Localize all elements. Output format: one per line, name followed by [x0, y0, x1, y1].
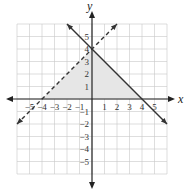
- svg-text:−3: −3: [50, 102, 60, 112]
- svg-text:4: 4: [85, 44, 90, 54]
- svg-text:3: 3: [127, 102, 132, 112]
- svg-text:5: 5: [152, 102, 157, 112]
- svg-text:−1: −1: [79, 107, 89, 117]
- svg-text:−5: −5: [79, 157, 89, 167]
- svg-text:2: 2: [85, 69, 90, 79]
- axes: [6, 11, 175, 189]
- svg-text:−4: −4: [79, 144, 89, 154]
- x-axis-label: x: [177, 92, 184, 106]
- svg-text:2: 2: [115, 102, 120, 112]
- inequality-graph: −5−4−3−2−11234554321−1−2−3−4−5 x y: [0, 0, 189, 191]
- y-axis-label: y: [86, 0, 93, 13]
- svg-text:1: 1: [102, 102, 107, 112]
- svg-text:3: 3: [85, 57, 90, 67]
- svg-text:−2: −2: [62, 102, 72, 112]
- svg-text:−5: −5: [25, 102, 35, 112]
- svg-text:4: 4: [140, 102, 145, 112]
- svg-text:5: 5: [85, 32, 90, 42]
- svg-text:1: 1: [85, 82, 90, 92]
- svg-text:−4: −4: [37, 102, 47, 112]
- svg-text:−2: −2: [79, 119, 89, 129]
- svg-text:−3: −3: [79, 132, 89, 142]
